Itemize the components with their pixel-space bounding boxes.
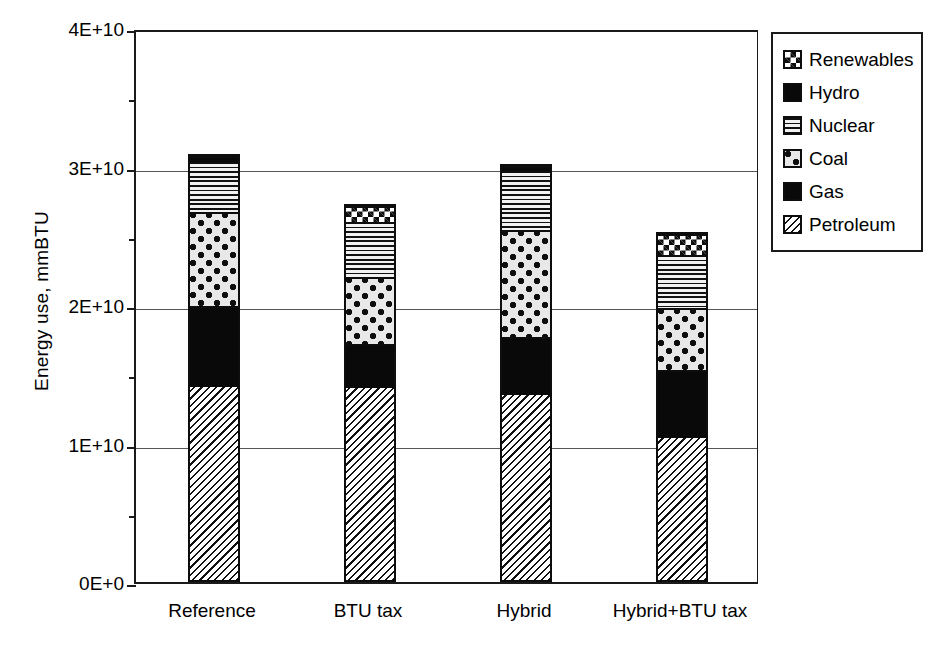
y-axis-minor-tick-mark [129,516,136,518]
bar-segment-coal[interactable] [500,230,552,337]
y-axis-tick-mark [127,585,136,587]
legend-item-hydro[interactable]: Hydro [773,76,921,109]
bar-segment-gas[interactable] [656,370,708,438]
y-axis-tick-mark [127,308,136,310]
legend-swatch-icon [783,215,802,234]
bar-segment-nuclear[interactable] [656,255,708,308]
y-axis-tick-label: 1E+10 [24,436,124,455]
bar-segment-petroleum[interactable] [188,387,240,582]
chart-legend: RenewablesHydroNuclearCoalGasPetroleum [771,32,923,252]
chart-figure: Energy use, mmBTU 0E+01E+102E+103E+104E+… [0,0,931,657]
legend-item-coal[interactable]: Coal [773,142,921,175]
bar-segment-renewables[interactable] [656,232,708,256]
bar-reference[interactable] [188,154,240,582]
bar-segment-gas[interactable] [344,344,396,388]
bar-segment-coal[interactable] [188,212,240,306]
y-axis-tick-labels: 0E+01E+102E+103E+104E+10 [16,0,124,657]
bar-btu-tax[interactable] [344,204,396,582]
bar-segment-gas[interactable] [500,337,552,395]
y-axis-minor-tick-mark [129,377,136,379]
plot-area [134,30,758,584]
legend-label: Petroleum [809,215,896,234]
legend-swatch-icon [783,149,802,168]
legend-label: Coal [809,149,848,168]
y-axis-tick-mark [127,170,136,172]
legend-item-nuclear[interactable]: Nuclear [773,109,921,142]
bar-segment-nuclear[interactable] [500,171,552,231]
bar-segment-renewables[interactable] [344,204,396,222]
x-axis-tick-label: Hybrid+BTU tax [570,600,790,622]
y-axis-tick-mark [127,447,136,449]
bar-segment-hydro[interactable] [500,164,552,171]
legend-swatch-icon [783,83,802,102]
y-axis-tick-label: 0E+0 [24,574,124,593]
legend-swatch-icon [783,182,802,201]
legend-label: Renewables [809,50,914,69]
bar-segment-gas[interactable] [188,306,240,386]
bar-segment-coal[interactable] [344,277,396,343]
bar-segment-hydro[interactable] [188,154,240,162]
plot-inner [136,32,757,582]
bar-segment-nuclear[interactable] [188,162,240,212]
legend-label: Gas [809,182,844,201]
legend-swatch-icon [783,116,802,135]
bar-hybrid-btu-tax[interactable] [656,232,708,582]
y-axis-tick-label: 3E+10 [24,159,124,178]
bar-segment-petroleum[interactable] [344,388,396,582]
legend-item-renewables[interactable]: Renewables [773,43,921,76]
bar-segment-petroleum[interactable] [500,395,552,582]
legend-label: Hydro [809,83,860,102]
legend-item-gas[interactable]: Gas [773,175,921,208]
bar-segment-coal[interactable] [656,308,708,370]
legend-label: Nuclear [809,116,874,135]
y-axis-tick-label: 4E+10 [24,20,124,39]
bar-hybrid[interactable] [500,164,552,582]
bar-segment-nuclear[interactable] [344,222,396,277]
y-axis-minor-tick-mark [129,100,136,102]
y-axis-minor-tick-mark [129,239,136,241]
legend-item-petroleum[interactable]: Petroleum [773,208,921,241]
legend-swatch-icon [783,50,802,69]
bar-segment-petroleum[interactable] [656,438,708,582]
y-axis-tick-label: 2E+10 [24,297,124,316]
y-axis-tick-mark [127,31,136,33]
